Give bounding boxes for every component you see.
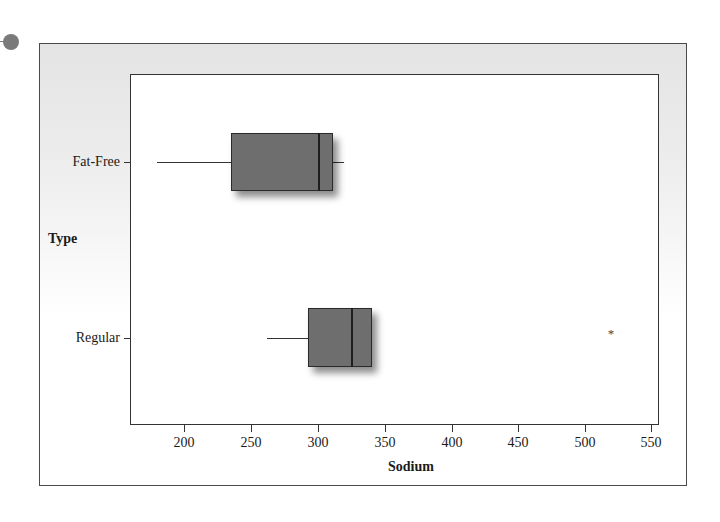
y-label-fat-free: Fat-Free xyxy=(10,154,120,170)
x-tick-300 xyxy=(318,425,319,432)
plot-area xyxy=(130,74,659,425)
y-tick-fat-free xyxy=(124,162,130,163)
fat-free-median xyxy=(318,133,320,191)
x-label-500: 500 xyxy=(565,435,605,451)
x-label-400: 400 xyxy=(432,435,472,451)
y-label-regular: Regular xyxy=(10,330,120,346)
bullet-dot-icon xyxy=(3,34,19,50)
regular-box xyxy=(308,308,372,367)
x-label-200: 200 xyxy=(164,435,204,451)
x-label-550: 550 xyxy=(631,435,671,451)
x-tick-200 xyxy=(184,425,185,432)
x-tick-250 xyxy=(251,425,252,432)
x-label-350: 350 xyxy=(365,435,405,451)
x-label-250: 250 xyxy=(231,435,271,451)
regular-outlier-marker: * xyxy=(605,328,617,340)
x-tick-550 xyxy=(651,425,652,432)
y-axis-title: Type xyxy=(48,231,77,247)
fat-free-lower-whisker xyxy=(157,162,232,163)
x-tick-400 xyxy=(452,425,453,432)
y-tick-regular xyxy=(124,338,130,339)
regular-median xyxy=(351,308,353,367)
x-axis-title: Sodium xyxy=(381,459,441,475)
x-tick-500 xyxy=(585,425,586,432)
x-tick-350 xyxy=(385,425,386,432)
regular-lower-whisker xyxy=(267,338,309,339)
x-tick-450 xyxy=(518,425,519,432)
x-label-450: 450 xyxy=(498,435,538,451)
x-label-300: 300 xyxy=(298,435,338,451)
